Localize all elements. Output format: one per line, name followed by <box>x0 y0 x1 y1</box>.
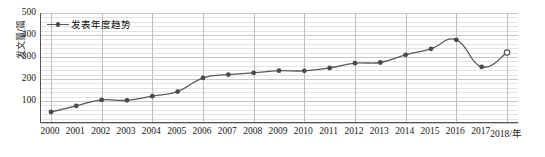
x-tick-2005: 2005 <box>167 126 186 136</box>
data-point-2008 <box>251 70 256 75</box>
data-point-2013 <box>378 60 383 65</box>
data-point-2007 <box>226 72 231 77</box>
x-tick-2010: 2010 <box>294 126 313 136</box>
x-tick-2014: 2014 <box>395 126 414 136</box>
x-tick-2002: 2002 <box>91 126 110 136</box>
x-tick-2008: 2008 <box>243 126 262 136</box>
legend: 发表年度趋势 <box>47 17 131 31</box>
x-tick-2006: 2006 <box>193 126 212 136</box>
chart-container: 发文量/篇 100200300400500 200020012002200320… <box>0 0 545 157</box>
gridline-major-h <box>41 123 518 124</box>
x-tick-2012: 2012 <box>345 126 364 136</box>
data-point-2012 <box>353 61 358 66</box>
x-tick-2013: 2013 <box>370 126 389 136</box>
x-tick-2018: 2018/年 <box>490 126 522 140</box>
data-point-2009 <box>277 68 282 73</box>
data-point-2016 <box>454 37 459 42</box>
y-tick-300: 300 <box>10 52 36 62</box>
x-axis-tick-labels: 2000200120022003200420052006200720082009… <box>0 126 545 146</box>
legend-line-marker-icon <box>47 24 69 25</box>
data-point-open-2018 <box>504 50 509 55</box>
series-line <box>51 39 507 112</box>
y-tick-500: 500 <box>10 8 36 18</box>
x-tick-2015: 2015 <box>421 126 440 136</box>
data-point-2010 <box>302 68 307 73</box>
data-point-2014 <box>403 52 408 57</box>
data-point-2011 <box>327 66 332 71</box>
x-tick-2001: 2001 <box>66 126 85 136</box>
data-point-2015 <box>429 46 434 51</box>
x-tick-2011: 2011 <box>319 126 338 136</box>
x-tick-2017: 2017 <box>471 126 490 136</box>
y-tick-100: 100 <box>10 96 36 106</box>
data-point-2003 <box>125 98 130 103</box>
data-point-2000 <box>49 110 54 115</box>
x-tick-2004: 2004 <box>142 126 161 136</box>
x-tick-2009: 2009 <box>269 126 288 136</box>
data-point-2017 <box>479 65 484 70</box>
data-point-2006 <box>201 76 206 81</box>
data-point-2001 <box>74 103 79 108</box>
legend-label: 发表年度趋势 <box>71 17 131 31</box>
y-tick-400: 400 <box>10 30 36 40</box>
data-point-2002 <box>99 98 104 103</box>
data-point-2004 <box>150 94 155 99</box>
y-tick-200: 200 <box>10 74 36 84</box>
x-tick-2003: 2003 <box>117 126 136 136</box>
data-point-2005 <box>175 89 180 94</box>
x-tick-2016: 2016 <box>446 126 465 136</box>
x-tick-2000: 2000 <box>41 126 60 136</box>
x-tick-2007: 2007 <box>218 126 237 136</box>
